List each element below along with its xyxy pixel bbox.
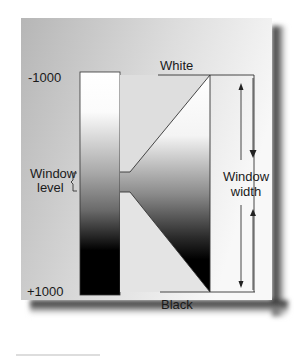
window-width-label-line2: width [230, 184, 261, 199]
hounsfield-scale-bar [80, 72, 120, 295]
window-level-label-line2: level [37, 180, 64, 195]
scale-top-label: -1000 [28, 70, 61, 85]
scale-bottom-label: +1000 [27, 284, 64, 299]
window-level-diagram: White Black Window width -1000 +1000 Win… [0, 0, 296, 358]
window-level-label-line1: Window [30, 166, 77, 181]
black-label: Black [161, 297, 193, 312]
white-label: White [160, 58, 193, 73]
window-width-label-line1: Window [223, 169, 270, 184]
